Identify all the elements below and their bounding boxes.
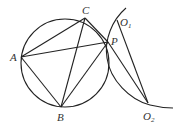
segment-bp <box>61 42 108 107</box>
segment-cp <box>85 18 108 42</box>
label-o1: O1 <box>120 16 131 30</box>
label-o1-sub: 1 <box>128 22 132 30</box>
label-o2-main: O <box>143 110 151 122</box>
label-o2: O2 <box>143 110 155 124</box>
geometry-diagram: A B C P O1 O2 <box>0 0 181 128</box>
label-o1-main: O <box>120 16 128 28</box>
label-b: B <box>57 111 64 123</box>
label-o2-sub: 2 <box>151 116 155 124</box>
label-a: A <box>9 51 17 63</box>
label-p: P <box>110 35 118 47</box>
label-c: C <box>82 4 90 16</box>
second-arc <box>106 8 173 108</box>
segment-o1o2 <box>117 20 148 103</box>
segment-bc <box>61 18 85 107</box>
